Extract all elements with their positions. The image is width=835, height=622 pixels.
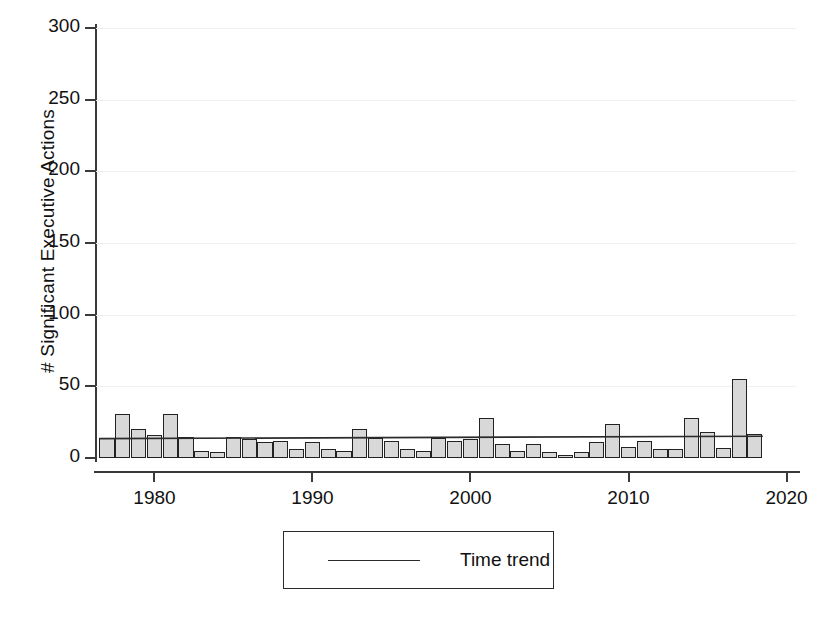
y-tick-label-150: 150 bbox=[20, 230, 80, 252]
y-tick-label-50: 50 bbox=[20, 373, 80, 395]
y-tick-100 bbox=[85, 314, 96, 316]
x-axis-line bbox=[94, 471, 800, 473]
bar-1989 bbox=[289, 449, 304, 458]
x-tick-1980 bbox=[153, 471, 155, 482]
bar-2004 bbox=[526, 444, 541, 458]
bar-series bbox=[96, 28, 796, 458]
y-tick-label-250: 250 bbox=[20, 87, 80, 109]
legend-label: Time trend bbox=[460, 549, 550, 571]
bar-1990 bbox=[305, 442, 320, 458]
bar-2014 bbox=[684, 418, 699, 458]
bar-2010 bbox=[621, 447, 636, 458]
bar-1992 bbox=[336, 451, 351, 458]
x-tick-2020 bbox=[786, 471, 788, 482]
bar-2008 bbox=[589, 442, 604, 458]
bar-2005 bbox=[542, 452, 557, 458]
bar-1996 bbox=[400, 449, 415, 458]
bar-2002 bbox=[495, 444, 510, 458]
bar-1995 bbox=[384, 441, 399, 458]
bar-1987 bbox=[257, 442, 272, 458]
y-tick-150 bbox=[85, 242, 96, 244]
bar-1979 bbox=[131, 429, 146, 458]
x-tick-label-2020: 2020 bbox=[747, 487, 827, 509]
bar-1986 bbox=[242, 439, 257, 458]
bar-1980 bbox=[147, 435, 162, 458]
bar-1985 bbox=[226, 437, 241, 459]
bar-2003 bbox=[510, 451, 525, 458]
bar-2018 bbox=[747, 434, 762, 458]
bar-2017 bbox=[732, 379, 747, 458]
bar-1981 bbox=[163, 414, 178, 458]
y-axis-tick-labels: 050100150200250300 bbox=[10, 0, 80, 622]
y-tick-250 bbox=[85, 99, 96, 101]
y-tick-label-200: 200 bbox=[20, 158, 80, 180]
bar-1993 bbox=[352, 429, 367, 458]
bar-2009 bbox=[605, 424, 620, 458]
bar-2006 bbox=[558, 455, 573, 458]
bar-1991 bbox=[321, 449, 336, 458]
y-tick-200 bbox=[85, 170, 96, 172]
x-tick-label-2010: 2010 bbox=[589, 487, 669, 509]
plot-area bbox=[96, 28, 796, 458]
bar-1978 bbox=[115, 414, 130, 458]
bar-1994 bbox=[368, 438, 383, 458]
x-tick-2010 bbox=[628, 471, 630, 482]
bar-2000 bbox=[463, 439, 478, 458]
bar-1998 bbox=[431, 438, 446, 458]
x-tick-1990 bbox=[311, 471, 313, 482]
x-tick-label-1990: 1990 bbox=[272, 487, 352, 509]
bar-2013 bbox=[668, 449, 683, 458]
y-tick-300 bbox=[85, 27, 96, 29]
x-tick-2000 bbox=[469, 471, 471, 482]
legend: Time trend bbox=[283, 531, 554, 589]
bar-2012 bbox=[653, 449, 668, 458]
y-tick-label-300: 300 bbox=[20, 15, 80, 37]
chart-figure: # Significant Executive Actions 05010015… bbox=[0, 0, 835, 622]
bar-2015 bbox=[700, 432, 715, 458]
x-tick-label-1980: 1980 bbox=[114, 487, 194, 509]
bar-1983 bbox=[194, 451, 209, 458]
y-tick-label-100: 100 bbox=[20, 302, 80, 324]
bar-1997 bbox=[416, 451, 431, 458]
bar-2007 bbox=[574, 452, 589, 458]
bar-1982 bbox=[178, 437, 193, 459]
y-tick-0 bbox=[85, 457, 96, 459]
legend-line-marker bbox=[328, 560, 420, 561]
bar-2016 bbox=[716, 448, 731, 458]
bar-1988 bbox=[273, 441, 288, 458]
y-tick-50 bbox=[85, 385, 96, 387]
bar-2001 bbox=[479, 418, 494, 458]
bar-2011 bbox=[637, 441, 652, 458]
x-tick-label-2000: 2000 bbox=[430, 487, 510, 509]
y-tick-label-0: 0 bbox=[20, 445, 80, 467]
bar-1999 bbox=[447, 441, 462, 458]
bar-1984 bbox=[210, 452, 225, 458]
bar-1977 bbox=[99, 438, 114, 458]
